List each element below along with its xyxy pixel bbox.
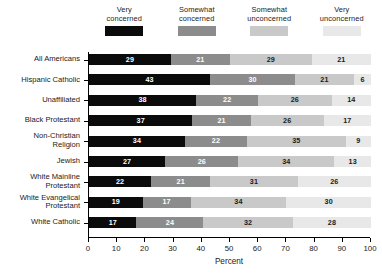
- legend-swatch: [178, 26, 216, 36]
- bar-segment: 34: [191, 197, 287, 208]
- x-axis-tick: [116, 238, 117, 242]
- bar-segment-value: 17: [162, 198, 170, 206]
- bar-segment-value: 30: [325, 198, 333, 206]
- bar-segment: 9: [346, 136, 371, 147]
- bar-segment-value: 24: [166, 219, 174, 227]
- bar-segment: 26: [251, 115, 324, 126]
- bar-segment: 26: [258, 95, 331, 106]
- bar-segment-value: 35: [292, 137, 300, 145]
- bar-segment: 24: [136, 217, 203, 228]
- plot-area: 2921292143302163822261437212617342235927…: [88, 52, 370, 238]
- bar-row: 37212617: [89, 115, 371, 126]
- bar-segment-value: 19: [112, 198, 120, 206]
- x-axis-tick-label: 20: [132, 244, 156, 253]
- bar-segment-value: 26: [291, 96, 299, 104]
- bar-segment: 22: [196, 95, 258, 106]
- bar-row: 38222614: [89, 95, 371, 106]
- stacked-bar-chart: Very concernedSomewhat concernedSomewhat…: [0, 0, 382, 277]
- x-axis-tick: [314, 238, 315, 242]
- legend-label: Very concerned: [107, 6, 142, 23]
- bar-segment: 21: [151, 176, 210, 187]
- y-axis-label: Jewish: [0, 157, 80, 166]
- bar-segment-value: 17: [343, 117, 351, 125]
- x-axis-tick-label: 10: [104, 244, 128, 253]
- bar-segment-value: 17: [109, 219, 117, 227]
- y-axis-label: White Mainline Protestant: [0, 173, 80, 191]
- legend-item: Somewhat unconcerned: [233, 6, 306, 50]
- bar-segment-value: 34: [282, 158, 290, 166]
- bar-segment: 17: [324, 115, 371, 126]
- bar-segment-value: 30: [248, 76, 256, 84]
- bar-segment-value: 21: [196, 56, 204, 64]
- x-axis-tick: [201, 238, 202, 242]
- legend-item: Very unconcerned: [306, 6, 379, 50]
- bar-segment: 21: [171, 54, 230, 65]
- x-axis-tick: [88, 238, 89, 242]
- x-axis-tick: [257, 238, 258, 242]
- bar-segment-value: 38: [138, 96, 146, 104]
- bar-segment: 27: [89, 156, 165, 167]
- bar-row: 22213126: [89, 176, 371, 187]
- bar-segment: 28: [293, 217, 371, 228]
- bar-segment: 21: [295, 74, 354, 85]
- legend-label: Somewhat unconcerned: [247, 6, 291, 23]
- legend-item: Very concerned: [88, 6, 161, 50]
- bar-row: 29212921: [89, 54, 371, 65]
- bar-row: 27263413: [89, 156, 371, 167]
- y-axis-label: All Americans: [0, 55, 80, 64]
- bar-segment: 6: [354, 74, 371, 85]
- bar-segment: 29: [230, 54, 312, 65]
- bar-segment-value: 22: [212, 137, 220, 145]
- y-axis-label: Unaffiliated: [0, 96, 80, 105]
- bar-segment-value: 43: [146, 76, 154, 84]
- bar-segment: 26: [298, 176, 371, 187]
- bar-segment-value: 6: [360, 76, 364, 84]
- bar-segment: 17: [143, 197, 191, 208]
- bar-row: 3422359: [89, 136, 371, 147]
- x-axis-tick: [144, 238, 145, 242]
- bar-segment: 31: [210, 176, 297, 187]
- bar-segment-value: 13: [349, 158, 357, 166]
- bar-segment-value: 22: [223, 96, 231, 104]
- y-axis-label: White Evangelical Protestant: [0, 194, 80, 212]
- x-axis-tick-label: 0: [76, 244, 100, 253]
- bar-segment-value: 26: [198, 158, 206, 166]
- bar-segment-value: 26: [330, 178, 338, 186]
- y-axis-label: Non-Christian Religion: [0, 132, 80, 150]
- x-axis-tick: [229, 238, 230, 242]
- legend-swatch: [105, 26, 143, 36]
- bar-segment-value: 34: [133, 137, 141, 145]
- bar-segment: 21: [192, 115, 251, 126]
- chart-legend: Very concernedSomewhat concernedSomewhat…: [88, 6, 378, 50]
- bar-segment-value: 21: [218, 117, 226, 125]
- y-axis-labels: All AmericansHispanic CatholicUnaffiliat…: [0, 52, 84, 238]
- bar-segment-value: 21: [177, 178, 185, 186]
- bar-segment-value: 34: [234, 198, 242, 206]
- bar-segment: 19: [89, 197, 143, 208]
- x-axis-tick: [285, 238, 286, 242]
- bar-segment-value: 31: [250, 178, 258, 186]
- x-axis-tick-label: 80: [302, 244, 326, 253]
- bar-segment-value: 21: [320, 76, 328, 84]
- x-axis-tick-label: 100: [358, 244, 382, 253]
- bar-segment-value: 21: [337, 56, 345, 64]
- bar-segment-value: 27: [123, 158, 131, 166]
- bar-segment: 22: [185, 136, 247, 147]
- bar-segment: 35: [247, 136, 346, 147]
- x-axis-title: Percent: [88, 257, 370, 266]
- x-axis-tick: [173, 238, 174, 242]
- bar-segment: 21: [312, 54, 371, 65]
- bar-segment: 30: [210, 74, 295, 85]
- legend-swatch: [323, 26, 361, 36]
- legend-label: Very unconcerned: [320, 6, 364, 23]
- x-axis-tick-label: 90: [330, 244, 354, 253]
- bar-segment: 17: [89, 217, 136, 228]
- bar-segment-value: 37: [137, 117, 145, 125]
- x-axis-tick: [342, 238, 343, 242]
- bar-segment: 22: [89, 176, 151, 187]
- bar-segment-value: 14: [347, 96, 355, 104]
- bar-row: 19173430: [89, 197, 371, 208]
- bar-segment: 43: [89, 74, 210, 85]
- bar-segment: 38: [89, 95, 196, 106]
- x-axis-tick-label: 70: [273, 244, 297, 253]
